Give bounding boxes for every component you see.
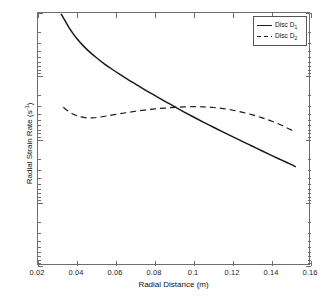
y-tick-minor-right [308,170,311,171]
y-tick-minor [38,197,41,198]
x-tick-top [116,13,117,18]
y-tick-minor-right [308,95,311,96]
figure: 0.020.040.060.080.10.120.140.16 -10-6-10… [0,0,325,296]
legend-label-disc-d2-sub: 2 [294,35,297,41]
y-tick-minor [38,233,41,234]
x-tick [194,261,195,266]
y-tick-minor [38,159,41,160]
y-tick-right [306,203,311,204]
x-tick [116,261,117,266]
y-tick-minor [38,70,41,71]
y-tick-minor [38,263,41,264]
y-tick-minor-right [308,260,311,261]
y-tick-minor [38,114,41,115]
y-tick-minor [38,260,41,261]
y-tick-minor-right [308,51,311,52]
plot-canvas [38,13,311,266]
y-tick-minor [38,66,41,67]
x-tick [155,261,156,266]
y-tick-minor [38,189,41,190]
y-tick-minor [38,62,41,63]
legend-swatch-solid-line [257,25,272,26]
y-tick-minor [38,193,41,194]
x-tick-label: 0.12 [225,268,240,277]
y-tick-minor-right [308,133,311,134]
y-axis-title-base: Radial Strain Rate (s [25,110,34,184]
x-tick [77,261,78,266]
y-axis-title-exponent: -1 [24,105,30,110]
y-tick-minor-right [308,130,311,131]
y-tick-minor [38,120,41,121]
y-tick-minor [38,200,41,201]
legend-label-disc-d1: Disc D1 [275,21,297,30]
y-tick-minor [38,95,41,96]
legend[interactable]: Disc D1 Disc D2 [253,16,307,46]
x-tick-label: 0.08 [147,268,162,277]
y-tick-minor-right [308,57,311,58]
legend-label-disc-d2: Disc D2 [275,32,297,41]
plot-area [37,12,310,265]
y-tick-right [306,140,311,141]
y-tick [38,266,43,267]
y-tick-minor-right [308,73,311,74]
legend-label-disc-d1-base: Disc D [275,21,294,28]
y-tick-minor [38,178,41,179]
y-tick-minor-right [308,66,311,67]
y-tick-minor [38,57,41,58]
y-tick-minor [38,43,41,44]
y-axis-title-tail: ) [25,103,34,106]
x-tick-label: 0.06 [108,268,123,277]
y-tick [38,13,43,14]
y-tick-minor-right [308,252,311,253]
y-tick-minor [38,32,41,33]
y-tick-minor-right [308,70,311,71]
y-tick-minor [38,73,41,74]
y-tick-minor [38,137,41,138]
y-tick-minor-right [308,120,311,121]
y-tick-minor [38,241,41,242]
y-tick-minor-right [308,233,311,234]
y-tick-minor-right [308,200,311,201]
y-tick-minor-right [308,189,311,190]
legend-item-disc-d1[interactable]: Disc D1 [257,20,303,31]
x-tick-top [194,13,195,18]
y-tick-minor-right [308,137,311,138]
x-tick-label: 0.1 [188,268,199,277]
x-tick-label: 0.16 [303,268,318,277]
x-tick-label: 0.02 [30,268,45,277]
x-tick [272,261,273,266]
y-tick-minor [38,256,41,257]
y-tick-minor-right [308,178,311,179]
y-tick-minor [38,247,41,248]
x-tick-top [311,13,312,18]
y-tick [38,140,43,141]
y-tick-minor-right [308,184,311,185]
y-tick-minor-right [308,222,311,223]
series-line-disc-d2 [63,107,295,133]
y-tick-minor-right [308,62,311,63]
y-tick-minor-right [308,125,311,126]
y-tick-minor-right [308,43,311,44]
y-tick-minor-right [308,32,311,33]
x-tick [233,261,234,266]
y-tick-right [306,266,311,267]
x-axis-title: Radial Distance (m) [37,280,310,289]
y-tick-minor [38,170,41,171]
y-tick-right [306,76,311,77]
x-tick-top [155,13,156,18]
y-tick-minor [38,130,41,131]
legend-swatch-dashed-line [257,36,272,37]
y-tick-minor-right [308,106,311,107]
legend-label-disc-d2-base: Disc D [275,32,294,39]
x-tick-label: 0.14 [264,268,279,277]
x-tick [311,261,312,266]
legend-item-disc-d2[interactable]: Disc D2 [257,31,303,42]
y-tick-minor [38,184,41,185]
y-tick-minor-right [308,114,311,115]
y-tick-minor-right [308,263,311,264]
y-tick-minor [38,222,41,223]
y-axis-title: Radial Strain Rate (s-1) [24,53,35,233]
y-tick-minor-right [308,241,311,242]
x-tick-top [233,13,234,18]
y-tick-minor-right [308,197,311,198]
